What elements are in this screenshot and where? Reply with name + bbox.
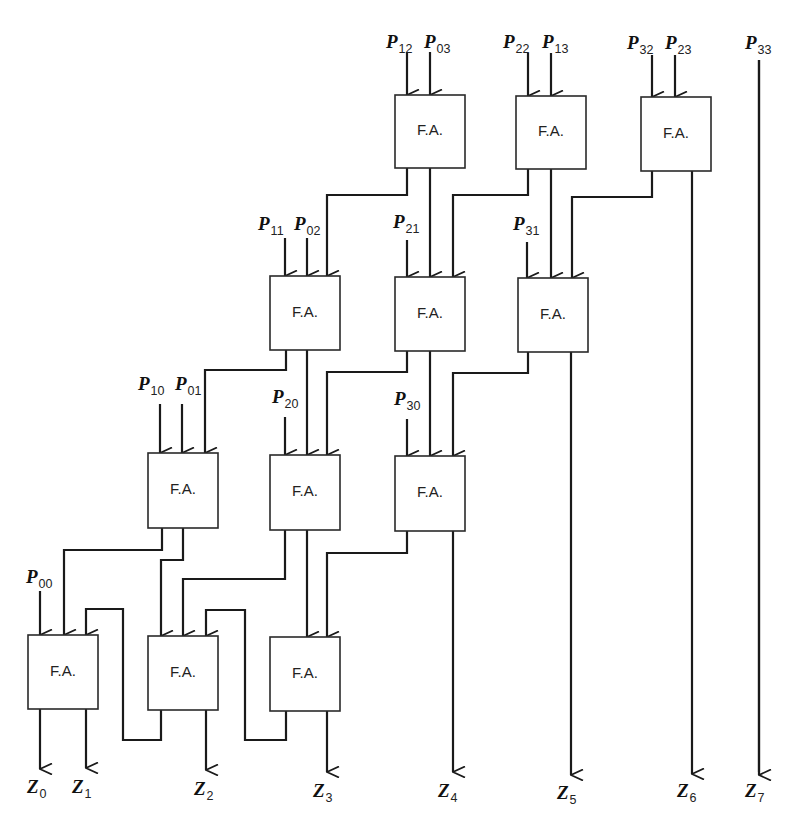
input-label-p22: P22 [502, 31, 530, 56]
full-adder-a1: F.A. [395, 95, 465, 168]
output-label-z1: Z1 [71, 776, 92, 801]
input-p01: P01 [174, 373, 202, 453]
signal-subscript: 20 [285, 397, 299, 411]
input-label-p23: P23 [664, 32, 692, 57]
wire-b3-carry-to-c3 [453, 352, 528, 456]
input-label-p31: P31 [512, 213, 540, 238]
signal-name: Z [556, 782, 569, 803]
input-label-p13: P13 [541, 31, 569, 56]
signal-name: P [744, 32, 757, 53]
output-z4: Z4 [437, 531, 458, 805]
full-adder-label: F.A. [292, 664, 318, 681]
input-label-p21: P21 [392, 211, 420, 236]
output-label-z6: Z6 [676, 780, 697, 805]
full-adder-d3: F.A. [270, 637, 340, 711]
signal-subscript: 11 [271, 224, 284, 238]
signal-name: P [626, 32, 639, 53]
signal-subscript: 6 [690, 791, 697, 805]
input-p22: P22 [502, 31, 530, 96]
signal-subscript: 5 [570, 793, 577, 807]
output-z6: Z6 [676, 171, 697, 805]
signal-subscript: 23 [678, 43, 692, 57]
full-adder-cells: F.A.F.A.F.A.F.A.F.A.F.A.F.A.F.A.F.A.F.A.… [28, 95, 711, 711]
full-adder-d1: F.A. [28, 635, 98, 709]
input-label-p02: P02 [293, 213, 321, 238]
signal-subscript: 10 [151, 384, 165, 398]
output-z3: Z3 [312, 711, 333, 805]
signal-subscript: 32 [640, 43, 654, 57]
signal-subscript: 01 [188, 384, 202, 398]
signal-name: P [271, 386, 284, 407]
output-label-z3: Z3 [312, 780, 333, 805]
output-label-z2: Z2 [193, 778, 214, 803]
signal-subscript: 00 [39, 577, 53, 591]
input-label-p20: P20 [271, 386, 299, 411]
full-adder-c1: F.A. [148, 453, 218, 528]
signal-name: P [392, 211, 405, 232]
output-z2: Z2 [193, 710, 214, 803]
wire-a3-carry-to-b3 [572, 171, 652, 278]
input-p23: P23 [664, 32, 692, 97]
full-adder-d2: F.A. [148, 636, 218, 710]
array-multiplier-diagram: P12P03P22P13P32P23P11P02P21P31P10P01P20P… [0, 0, 802, 822]
input-p32: P32 [626, 32, 654, 97]
input-p10: P10 [137, 373, 165, 453]
signal-name: P [423, 31, 436, 52]
signal-name: Z [71, 776, 84, 797]
signal-name: Z [312, 780, 325, 801]
signal-name: P [25, 566, 38, 587]
full-adder-label: F.A. [292, 303, 318, 320]
full-adder-a2: F.A. [516, 96, 586, 169]
full-adder-label: F.A. [417, 121, 443, 138]
signal-name: P [137, 373, 150, 394]
full-adder-label: F.A. [540, 305, 566, 322]
full-adder-c3: F.A. [395, 456, 465, 531]
signal-name: Z [676, 780, 689, 801]
input-label-p30: P30 [393, 388, 421, 413]
full-adder-label: F.A. [292, 482, 318, 499]
signal-subscript: 2 [207, 789, 214, 803]
signal-subscript: 12 [399, 42, 413, 56]
signal-subscript: 7 [758, 791, 765, 805]
signal-subscript: 21 [406, 222, 420, 236]
input-p20: P20 [271, 386, 299, 455]
input-p21: P21 [392, 211, 420, 277]
input-p11: P11 [257, 213, 285, 276]
full-adder-label: F.A. [170, 663, 196, 680]
output-z5: Z5 [556, 352, 577, 807]
full-adder-b3: F.A. [518, 278, 588, 352]
full-adder-label: F.A. [170, 480, 196, 497]
input-label-p00: P00 [25, 566, 53, 591]
output-label-z4: Z4 [437, 780, 458, 805]
full-adder-b2: F.A. [395, 277, 465, 351]
signal-name: Z [437, 780, 450, 801]
signal-name: P [293, 213, 306, 234]
signal-name: Z [26, 776, 39, 797]
signal-name: P [512, 213, 525, 234]
signal-subscript: 30 [407, 399, 421, 413]
output-label-z5: Z5 [556, 782, 577, 807]
wire-c1-carry-to-d1 [64, 528, 162, 635]
signal-subscript: 4 [451, 791, 458, 805]
signal-name: P [664, 32, 677, 53]
signal-name: P [541, 31, 554, 52]
signal-subscript: 0 [40, 787, 47, 801]
signal-subscript: 3 [326, 791, 333, 805]
signal-name: P [502, 31, 515, 52]
input-label-p32: P32 [626, 32, 654, 57]
signal-subscript: 22 [516, 42, 530, 56]
signal-subscript: 33 [758, 43, 772, 57]
wire-c1-sum-to-d2 [161, 528, 183, 636]
signal-subscript: 1 [85, 787, 92, 801]
signal-subscript: 03 [437, 42, 451, 56]
input-label-p12: P12 [385, 31, 413, 56]
output-z7: Z7 [744, 60, 765, 805]
output-label-z7: Z7 [744, 780, 765, 805]
full-adder-a3: F.A. [641, 97, 711, 171]
output-label-z0: Z0 [26, 776, 47, 801]
signal-name: Z [744, 780, 757, 801]
output-z0: Z0 [26, 709, 47, 801]
full-adder-label: F.A. [417, 304, 443, 321]
input-p03: P03 [423, 31, 451, 95]
signal-subscript: 13 [555, 42, 569, 56]
